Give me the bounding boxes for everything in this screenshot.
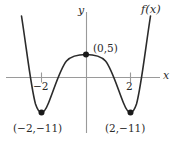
point-label-min-left: (−2,−11)	[13, 123, 62, 134]
x-tick-label-pos2: 2	[126, 81, 133, 92]
point-min-right	[128, 110, 134, 116]
y-axis-label: y	[78, 5, 84, 16]
x-axis-label: x	[163, 70, 169, 81]
point-label-min-right: (2,−11)	[105, 123, 145, 134]
point-vertex	[83, 52, 89, 58]
graph-figure: y x f(x) −2 2 (0,5) (−2,−11) (2,−11)	[0, 0, 174, 145]
point-label-vertex: (0,5)	[93, 43, 118, 54]
point-min-left	[39, 110, 45, 116]
function-name-label: f(x)	[141, 4, 161, 16]
x-tick-label-neg2: −2	[33, 81, 48, 92]
